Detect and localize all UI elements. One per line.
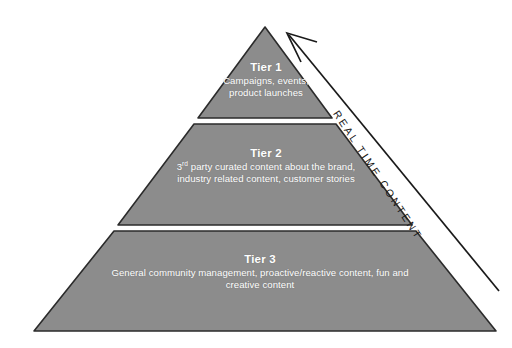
pyramid-diagram: Tier 1 Campaigns, events, product launch… (0, 0, 512, 348)
tier-3-shape[interactable] (34, 231, 496, 331)
pyramid-graphic (0, 0, 512, 348)
tier-2-shape[interactable] (118, 124, 412, 225)
